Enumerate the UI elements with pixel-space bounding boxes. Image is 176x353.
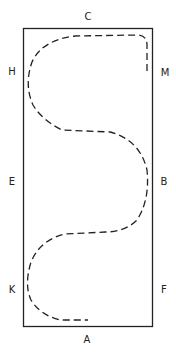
label-k: K xyxy=(6,284,18,295)
boundary-rectangle xyxy=(24,29,153,327)
label-b: B xyxy=(158,176,170,187)
label-h: H xyxy=(6,66,18,77)
dashed-serpentine-path xyxy=(28,35,148,320)
label-c: C xyxy=(82,11,94,22)
label-a: A xyxy=(81,334,93,345)
label-e: E xyxy=(6,176,18,187)
label-m: M xyxy=(159,67,171,78)
diagram-canvas xyxy=(0,0,176,353)
label-f: F xyxy=(158,284,170,295)
